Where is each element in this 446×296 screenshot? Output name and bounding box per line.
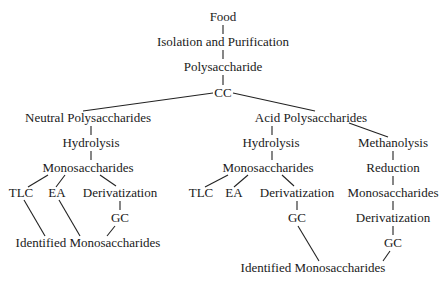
node-cc: CC	[214, 86, 231, 100]
node-ea-neutral: EA	[48, 186, 65, 200]
node-gc-methanolysis: GC	[384, 236, 402, 250]
node-derivatization-acid: Derivatization	[260, 186, 334, 200]
node-gc-neutral: GC	[111, 211, 129, 225]
node-methanolysis: Methanolysis	[358, 136, 428, 150]
node-derivatization-neutral: Derivatization	[83, 186, 157, 200]
node-ea-acid: EA	[225, 186, 242, 200]
node-hydrolysis-neutral: Hydrolysis	[62, 136, 119, 150]
node-reduction: Reduction	[366, 161, 419, 175]
node-monosaccharides-neutral: Monosaccharides	[43, 161, 134, 175]
connector-line	[59, 200, 80, 236]
node-monosaccharides-acid: Monosaccharides	[223, 161, 314, 175]
node-tlc-neutral: TLC	[9, 186, 34, 200]
node-monosaccharides-methanolysis: Monosaccharides	[348, 186, 439, 200]
node-hydrolysis-acid: Hydrolysis	[242, 136, 299, 150]
polysaccharide-analysis-flowchart: Food Isolation and Purification Polysacc…	[0, 0, 446, 296]
node-polysaccharide: Polysaccharide	[184, 60, 263, 74]
node-identified-monosaccharides-acid: Identified Monosaccharides	[241, 261, 386, 275]
node-isolation-purification: Isolation and Purification	[157, 35, 289, 49]
node-food: Food	[210, 10, 237, 24]
node-neutral-polysaccharides: Neutral Polysaccharides	[25, 111, 151, 125]
node-derivatization-methanolysis: Derivatization	[356, 211, 430, 225]
connector-line	[24, 200, 45, 236]
node-gc-acid: GC	[288, 211, 306, 225]
connector-line	[298, 226, 319, 261]
node-identified-monosaccharides-neutral: Identified Monosaccharides	[16, 236, 161, 250]
node-tlc-acid: TLC	[189, 186, 214, 200]
node-acid-polysaccharides: Acid Polysaccharides	[255, 111, 367, 125]
connector-line	[83, 93, 213, 111]
connector-line	[233, 93, 315, 111]
